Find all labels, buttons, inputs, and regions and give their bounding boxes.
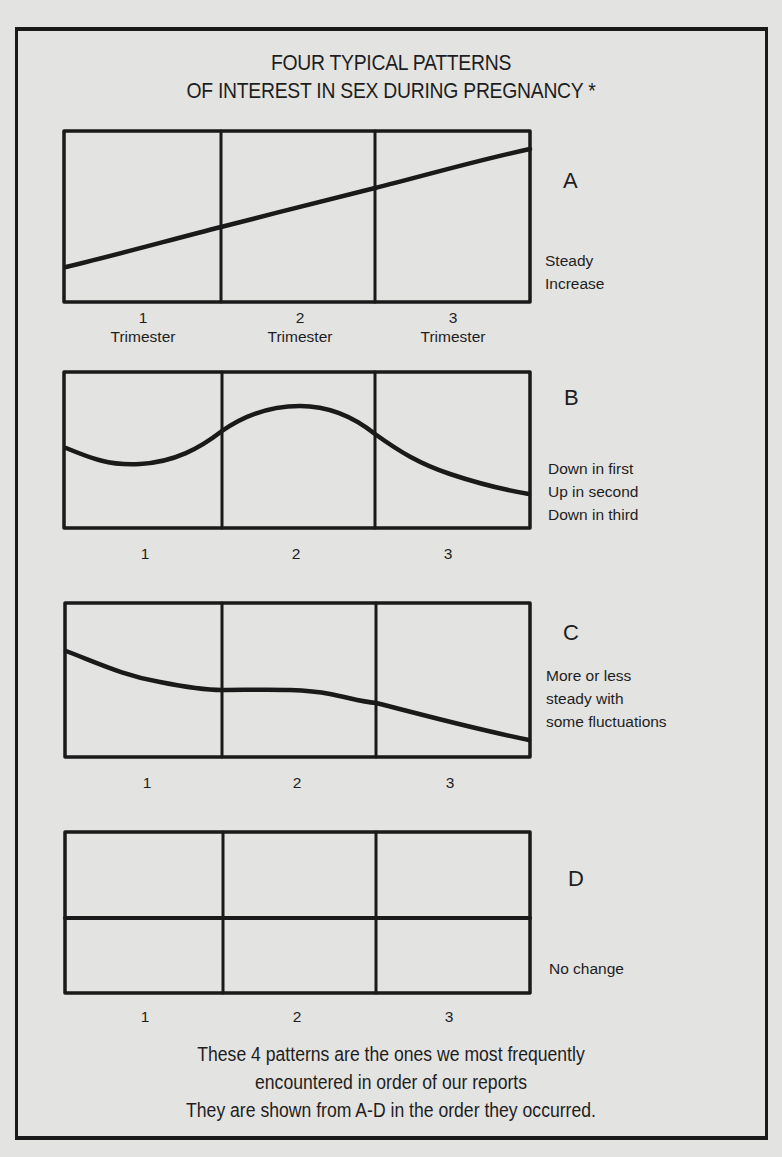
chart-a-box <box>64 131 530 302</box>
pattern-charts <box>0 0 782 1157</box>
chart-d-box <box>65 832 530 993</box>
panel-d-tick-3: 3 <box>389 1007 509 1026</box>
panel-b-letter: B <box>564 385 579 411</box>
panel-a-tick-2: 2 Trimester <box>240 308 360 346</box>
panel-d-tick-2: 2 <box>237 1007 357 1026</box>
panel-c-letter: C <box>563 620 579 646</box>
chart-panel-d <box>65 832 530 993</box>
panel-a-tick-3: 3 Trimester <box>393 308 513 346</box>
panel-d-letter: D <box>568 866 584 892</box>
chart-panel-c <box>65 603 530 757</box>
panel-d-description: No change <box>549 957 624 980</box>
panel-c-tick-1: 1 <box>87 773 207 792</box>
panel-c-description: More or less steady with some fluctuatio… <box>546 664 667 733</box>
panel-a-description: Steady Increase <box>545 249 604 295</box>
panel-b-tick-1: 1 <box>85 544 205 563</box>
chart-c-box <box>65 603 530 757</box>
panel-c-tick-2: 2 <box>237 773 357 792</box>
footnote-line-3: They are shown from A-D in the order the… <box>47 1099 735 1122</box>
chart-panel-a <box>64 131 530 302</box>
panel-b-tick-2: 2 <box>236 544 356 563</box>
panel-b-description: Down in first Up in second Down in third <box>548 457 638 526</box>
panel-d-tick-1: 1 <box>85 1007 205 1026</box>
panel-b-tick-3: 3 <box>388 544 508 563</box>
chart-a-line <box>66 149 530 267</box>
panel-a-letter: A <box>563 168 578 194</box>
panel-a-tick-1: 1 Trimester <box>83 308 203 346</box>
chart-b-line <box>66 406 529 494</box>
chart-c-line <box>66 651 529 740</box>
footnote-line-2: encountered in order of our reports <box>47 1071 735 1094</box>
chart-panel-b <box>64 372 530 528</box>
footnote-line-1: These 4 patterns are the ones we most fr… <box>47 1043 735 1066</box>
chart-b-box <box>64 372 530 528</box>
panel-c-tick-3: 3 <box>390 773 510 792</box>
